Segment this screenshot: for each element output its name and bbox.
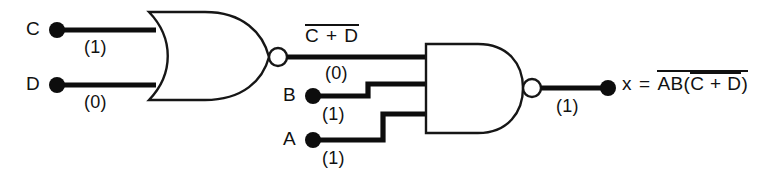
level-label-a: (1) bbox=[322, 149, 345, 167]
terminal-dot-c bbox=[49, 22, 65, 38]
level-label-nor-output: (0) bbox=[325, 64, 348, 82]
output-expression-outer-overbar: AB(C + D) bbox=[657, 70, 748, 93]
nor-gate-bubble-icon bbox=[269, 48, 287, 66]
logic-circuit-diagram: C D B A (1) (0) (0) (1) (1) (1) C + D x … bbox=[0, 0, 778, 177]
net-label-nor-output-overbar: C + D bbox=[305, 24, 359, 45]
terminal-dot-d bbox=[49, 77, 65, 93]
terminal-dot-b bbox=[305, 88, 321, 104]
output-expression-close-paren: ) bbox=[741, 73, 748, 94]
output-equals: = bbox=[639, 74, 651, 93]
input-label-a: A bbox=[283, 129, 296, 148]
output-expression: x = AB(C + D) bbox=[622, 70, 748, 93]
output-expression-inner-overbar: C + D bbox=[690, 72, 741, 93]
input-label-b: B bbox=[283, 85, 296, 104]
input-label-d: D bbox=[26, 74, 40, 93]
net-label-nor-output: C + D bbox=[305, 24, 359, 45]
nand-gate-bubble-icon bbox=[523, 79, 541, 97]
nor-gate-body bbox=[149, 12, 269, 100]
input-label-c: C bbox=[26, 19, 40, 38]
output-variable: x bbox=[622, 74, 632, 93]
nand-gate-body bbox=[426, 44, 523, 133]
wire-b-to-nand bbox=[313, 84, 428, 96]
terminal-dot-a bbox=[305, 132, 321, 148]
level-label-d: (0) bbox=[84, 93, 107, 111]
level-label-final-output: (1) bbox=[556, 97, 579, 115]
level-label-c: (1) bbox=[84, 38, 107, 56]
output-expression-ab-open: AB( bbox=[657, 73, 690, 94]
level-label-b: (1) bbox=[322, 105, 345, 123]
terminal-dot-x-output bbox=[600, 80, 616, 96]
